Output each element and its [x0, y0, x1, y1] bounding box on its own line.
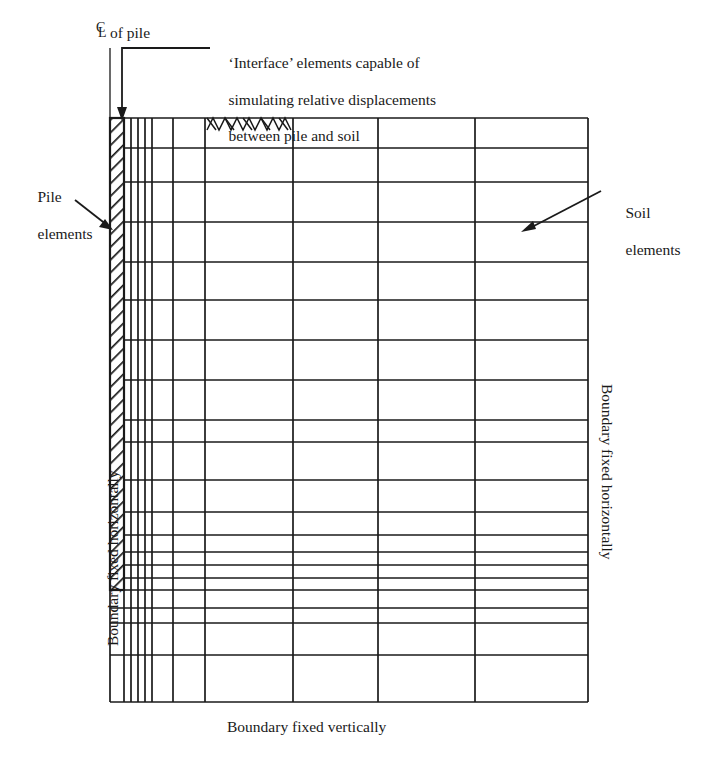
diagram-canvas: C L of pile ‘Interface’ elements capable…	[0, 0, 714, 761]
soil-elements-arrow	[521, 191, 601, 232]
interface-note-line-2: simulating relative displacements	[229, 91, 436, 108]
interface-note: ‘Interface’ elements capable of simulati…	[213, 36, 436, 164]
boundary-right-label: Boundary fixed horizontally	[598, 384, 616, 560]
boundary-left-label: Boundary fixed horizontally	[104, 470, 122, 646]
interface-note-line-3: between pile and soil	[229, 127, 360, 144]
boundary-bottom-label: Boundary fixed vertically	[227, 718, 386, 736]
pile-elements-label-line-1: Pile	[38, 188, 62, 205]
soil-elements-label: Soil elements	[610, 186, 681, 277]
centreline-label: of pile	[110, 24, 150, 42]
soil-elements-label-line-1: Soil	[626, 204, 651, 221]
soil-elements-label-line-2: elements	[626, 241, 681, 258]
pile-elements-label-line-2: elements	[38, 225, 93, 242]
pile-elements-label: Pile elements	[22, 170, 93, 261]
interface-note-line-1: ‘Interface’ elements capable of	[229, 54, 420, 71]
centreline-l-glyph: L	[98, 25, 107, 41]
interface-leader-line	[117, 48, 210, 121]
mesh-grid	[110, 118, 588, 702]
